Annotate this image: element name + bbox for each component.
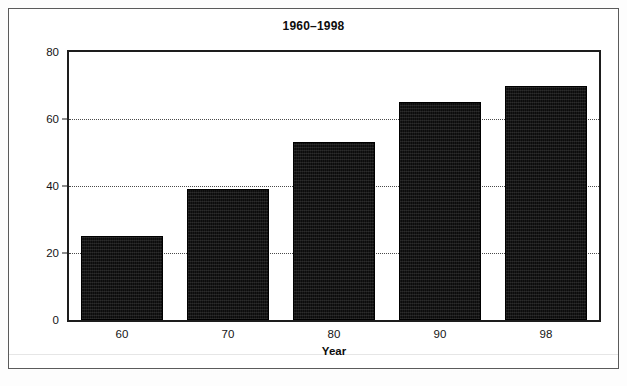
chart-figure: 1960–1998 020406080 6070809098 Year	[0, 0, 627, 386]
plot-inner	[69, 52, 599, 320]
bar-90	[399, 102, 482, 320]
y-tick-label-20: 20	[19, 247, 59, 259]
x-tick-label-90: 90	[395, 328, 485, 340]
y-tick-mark-40	[62, 186, 67, 187]
y-tick-label-40: 40	[19, 180, 59, 192]
bar-70	[187, 189, 270, 320]
y-tick-label-80: 80	[19, 46, 59, 58]
x-axis-title: Year	[67, 345, 601, 357]
bar-series	[69, 52, 599, 320]
x-tick-label-60: 60	[77, 328, 167, 340]
x-tick-label-80: 80	[289, 328, 379, 340]
bar-60	[81, 236, 164, 320]
plot-area	[67, 50, 601, 322]
bar-98	[505, 86, 588, 321]
y-tick-label-0: 0	[19, 314, 59, 326]
x-tick-label-98: 98	[501, 328, 591, 340]
y-tick-mark-20	[62, 253, 67, 254]
y-tick-mark-60	[62, 119, 67, 120]
bar-80	[293, 142, 376, 320]
chart-title: 1960–1998	[0, 19, 627, 33]
x-tick-label-70: 70	[183, 328, 273, 340]
y-tick-label-60: 60	[19, 113, 59, 125]
